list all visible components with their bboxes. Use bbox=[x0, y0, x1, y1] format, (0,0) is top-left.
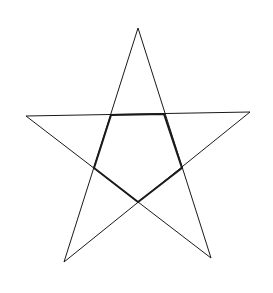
pentagram-diagram bbox=[0, 0, 273, 293]
diagram-canvas bbox=[0, 0, 273, 293]
inner-pentagon bbox=[94, 114, 182, 202]
pentagram-outline bbox=[26, 28, 250, 262]
